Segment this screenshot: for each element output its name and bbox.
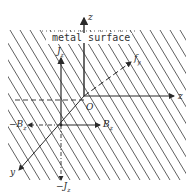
bz-label-text: B	[103, 119, 110, 129]
metal-surface-label: metal surface	[50, 33, 132, 43]
fy-vector	[84, 62, 131, 96]
fy-label: fy	[134, 54, 141, 65]
neg-bz-label-text: −B	[9, 119, 23, 129]
point-marker	[60, 124, 63, 127]
bz-label-sub: z	[110, 124, 113, 131]
fy-label-sub: y	[137, 58, 140, 65]
diagonal-axis-label: y	[10, 168, 15, 177]
horizontal-axis-label: z	[178, 92, 183, 101]
diagonal-y-axis	[19, 96, 84, 170]
jz-label: Jz	[57, 47, 64, 58]
jz-label-sub: z	[61, 51, 64, 58]
neg-jz-label-sub: z	[67, 186, 70, 192]
origin-label: O	[86, 103, 93, 112]
neg-jz-label-text: −J	[56, 181, 67, 191]
neg-jz-label: −Jz	[56, 182, 70, 192]
diagram-canvas: metal surface z z y O Jz −Jz Bz −Bz fy	[0, 0, 190, 192]
metal-hatching	[0, 30, 190, 180]
vertical-axis-label: z	[88, 13, 93, 22]
diagram-graphics	[0, 0, 190, 192]
neg-bz-label-sub: z	[23, 124, 26, 131]
neg-bz-label: −Bz	[9, 120, 26, 131]
bz-label: Bz	[103, 120, 113, 131]
